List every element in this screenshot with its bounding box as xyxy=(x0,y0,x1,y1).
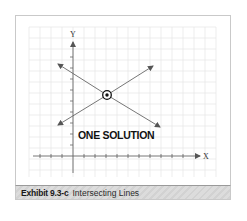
figure-caption: Exhibit 9.3-c Intersecting Lines xyxy=(15,185,231,200)
y-axis-label: Y xyxy=(70,30,76,39)
grid xyxy=(29,27,216,177)
x-axis-label: X xyxy=(203,152,209,161)
line-ascending-lower xyxy=(58,95,107,125)
annotation-one-solution: ONE SOLUTION xyxy=(78,129,154,141)
intersection-marker-icon xyxy=(103,91,112,100)
line-ascending xyxy=(107,66,153,95)
line-descending-lower xyxy=(107,95,160,127)
caption-title: Intersecting Lines xyxy=(72,188,139,198)
figure-exhibit: Y X ONE SOLUTION Exhibit 9.3-c Intersect… xyxy=(0,0,247,221)
caption-id: Exhibit 9.3-c xyxy=(21,188,68,198)
line-descending xyxy=(58,64,107,95)
axes xyxy=(33,42,200,173)
